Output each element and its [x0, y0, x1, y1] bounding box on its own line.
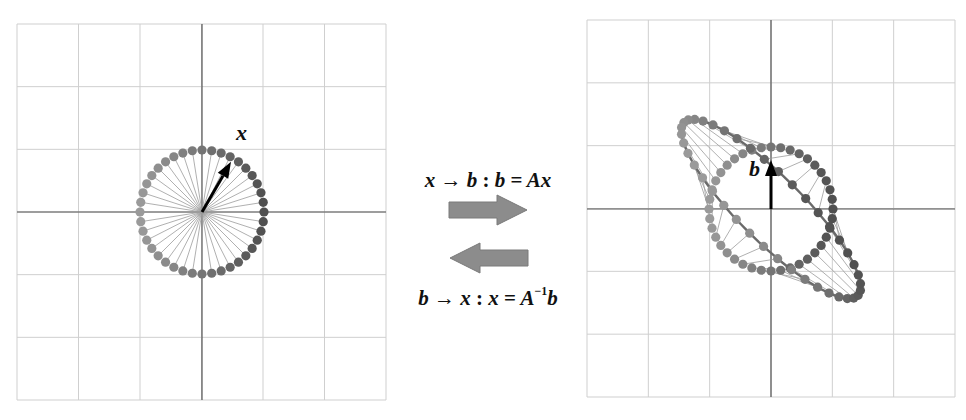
- forward-equation: x → b : b = Ax: [425, 168, 552, 193]
- inverse-expr-tail: b: [547, 286, 558, 310]
- forward-rhs: b: [467, 168, 478, 192]
- forward-sep: :: [482, 168, 489, 192]
- forward-lhs: x: [425, 168, 436, 192]
- forward-arrow-symbol: →: [440, 168, 461, 192]
- x-vector-label: x: [236, 120, 247, 146]
- inverse-rhs: x: [460, 286, 471, 310]
- middle-arrows: [449, 195, 528, 273]
- forward-expr: Ax: [527, 168, 552, 192]
- forward-equals: =: [510, 168, 522, 192]
- inverse-sep: :: [476, 286, 483, 310]
- forward-result: b: [495, 168, 506, 192]
- inverse-equation: b → x : x = A−1b: [418, 286, 558, 311]
- inverse-expr-base: A: [520, 286, 534, 310]
- figure: x b x → b : b = Ax b → x : x = A−1b: [0, 0, 966, 420]
- figure-canvas: [0, 0, 966, 420]
- inverse-lhs: b: [418, 286, 429, 310]
- left-arrow-icon: [450, 243, 528, 273]
- left-panel-input-space: [17, 24, 386, 400]
- inverse-equals: =: [504, 286, 516, 310]
- inverse-result: x: [488, 286, 499, 310]
- inverse-arrow-symbol: →: [434, 286, 455, 310]
- inverse-expr-exponent: −1: [534, 284, 547, 298]
- b-vector-label: b: [749, 156, 760, 182]
- right-panel-output-space: [587, 20, 955, 397]
- right-arrow-icon: [449, 195, 527, 225]
